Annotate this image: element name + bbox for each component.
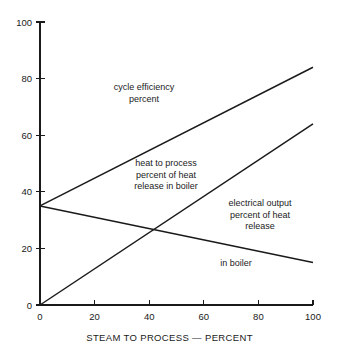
x-axis-tick-labels: 0 20 40 60 80 100 [37, 311, 321, 322]
x-tick-label-60: 60 [199, 311, 210, 322]
y-tick-label-40: 40 [21, 186, 32, 197]
x-axis-title: STEAM TO PROCESS — PERCENT [0, 332, 339, 343]
y-axis-tick-labels: 0 20 40 60 80 100 [16, 17, 32, 311]
y-tick-label-20: 20 [21, 243, 32, 254]
annotation-in-boiler: in boiler [176, 258, 296, 270]
y-tick-label-60: 60 [21, 130, 32, 141]
x-tick-label-20: 20 [89, 311, 100, 322]
annotation-cycle-efficiency: cycle efficiency percent [84, 82, 204, 105]
x-tick-label-80: 80 [253, 311, 264, 322]
y-tick-label-80: 80 [21, 73, 32, 84]
y-tick-label-0: 0 [27, 300, 32, 311]
annotation-heat-to-process: heat to process percent of heat release … [96, 158, 236, 193]
x-tick-label-100: 100 [305, 311, 321, 322]
x-tick-label-40: 40 [144, 311, 155, 322]
y-tick-label-100: 100 [16, 17, 32, 28]
x-axis-ticks [40, 300, 313, 305]
annotation-electrical-output: electrical output percent of heat releas… [196, 198, 324, 233]
x-tick-label-0: 0 [37, 311, 42, 322]
chart-figure: 0 20 40 60 80 100 0 20 40 60 80 100 [0, 0, 339, 360]
